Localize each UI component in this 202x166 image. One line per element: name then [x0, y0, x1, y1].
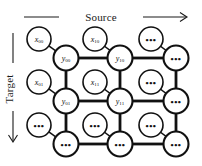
source-axis: Source	[24, 11, 187, 23]
node-x-2-2: •••	[139, 113, 163, 137]
observation-edge	[49, 46, 56, 51]
ellipsis-label: •••	[146, 78, 157, 88]
node-y-1-1: y11	[108, 89, 133, 114]
node-label-subscript: 10	[119, 58, 125, 63]
node-label-subscript: 11	[119, 101, 124, 106]
node-x-0-2: •••	[139, 27, 163, 51]
node-x-0-1: x10	[83, 27, 107, 51]
ellipsis-label: •••	[171, 54, 182, 64]
figure-canvas: Source Target x00x10•••x01x11•••••••••••…	[0, 0, 202, 166]
node-y-0-1: y10	[108, 46, 133, 71]
ellipsis-label: •••	[171, 140, 182, 150]
node-x-1-2: •••	[139, 70, 163, 94]
ellipsis-label: •••	[146, 121, 157, 131]
node-y-2-1: •••	[108, 132, 133, 157]
node-label-subscript: 00	[38, 39, 44, 44]
node-x-0-0: x00	[27, 27, 51, 51]
observation-edge	[49, 132, 56, 137]
node-y-0-2: •••	[164, 46, 189, 71]
source-axis-label: Source	[85, 11, 117, 23]
node-label-subscript: 01	[38, 82, 44, 87]
node-label-subscript: 11	[94, 82, 99, 87]
lattice-diagram: Source Target x00x10•••x01x11•••••••••••…	[0, 0, 202, 166]
node-x-1-1: x11	[83, 70, 107, 94]
node-label-subscript: 01	[65, 101, 71, 106]
target-axis-label: Target	[3, 75, 15, 104]
ellipsis-label: •••	[90, 121, 101, 131]
node-y-1-0: y01	[54, 89, 79, 114]
ellipsis-label: •••	[146, 35, 157, 45]
node-x-2-0: •••	[27, 113, 51, 137]
target-axis: Target	[3, 33, 18, 142]
node-label-subscript: 00	[65, 58, 71, 63]
observation-edge	[49, 89, 56, 94]
node-y-1-2: •••	[164, 89, 189, 114]
node-y-2-2: •••	[164, 132, 189, 157]
node-x-1-0: x01	[27, 70, 51, 94]
ellipsis-label: •••	[34, 121, 45, 131]
node-label-subscript: 10	[94, 39, 100, 44]
ellipsis-label: •••	[171, 97, 182, 107]
ellipsis-label: •••	[115, 140, 126, 150]
node-y-0-0: y00	[54, 46, 79, 71]
ellipsis-label: •••	[61, 140, 72, 150]
node-x-2-1: •••	[83, 113, 107, 137]
node-y-2-0: •••	[54, 132, 79, 157]
